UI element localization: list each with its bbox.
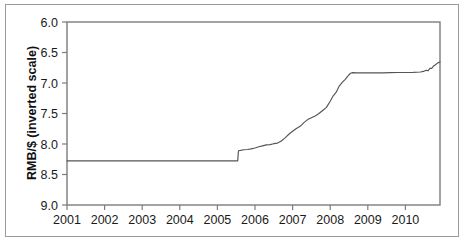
x-tick-label-2001: 2001 xyxy=(53,213,81,227)
x-axis-ticks xyxy=(67,205,405,210)
x-tick-label-2007: 2007 xyxy=(279,213,307,227)
y-axis-tick-labels: 6.06.57.07.58.08.59.0 xyxy=(41,16,58,213)
x-axis-tick-labels: 2001200220032004200520062007200820092010 xyxy=(53,213,419,227)
y-tick-label-8.5: 8.5 xyxy=(41,168,58,182)
y-axis-title: RMB/$ (inverted scale) xyxy=(25,46,39,180)
x-tick-label-2005: 2005 xyxy=(203,213,231,227)
y-tick-label-9.0: 9.0 xyxy=(41,199,58,213)
y-tick-label-6.0: 6.0 xyxy=(41,16,58,30)
x-tick-label-2006: 2006 xyxy=(241,213,269,227)
x-tick-label-2009: 2009 xyxy=(354,213,382,227)
x-tick-label-2004: 2004 xyxy=(166,213,194,227)
y-tick-label-7.5: 7.5 xyxy=(41,107,58,121)
x-tick-label-2002: 2002 xyxy=(91,213,119,227)
plot-area-frame xyxy=(67,22,440,205)
figure-root: 6.06.57.07.58.08.59.0 200120022003200420… xyxy=(0,0,466,248)
data-series-group xyxy=(67,62,440,161)
x-tick-label-2003: 2003 xyxy=(128,213,156,227)
y-axis-ticks xyxy=(62,22,67,205)
y-tick-label-7.0: 7.0 xyxy=(41,77,58,91)
rmb-exchange-rate-line-chart: 6.06.57.07.58.08.59.0 200120022003200420… xyxy=(0,0,466,248)
x-tick-label-2008: 2008 xyxy=(316,213,344,227)
series-line-rmb-per-usd xyxy=(67,62,440,161)
x-tick-label-2010: 2010 xyxy=(392,213,420,227)
y-tick-label-8.0: 8.0 xyxy=(41,138,58,152)
y-tick-label-6.5: 6.5 xyxy=(41,46,58,60)
